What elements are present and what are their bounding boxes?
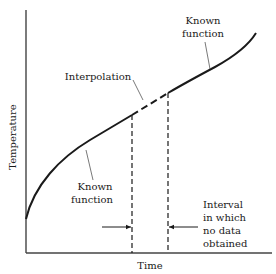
x-axis-label: Time	[137, 260, 162, 271]
known-function-lower-label-line1: Known	[78, 181, 113, 192]
interval-note-line1: Interval	[203, 199, 243, 210]
leader-interpolation	[133, 80, 143, 100]
interval-note-line2: in which	[203, 212, 247, 223]
leader-known-upper	[205, 42, 210, 69]
interval-note-line3: no data	[203, 225, 241, 236]
known-function-lower-label-line2: function	[71, 194, 113, 205]
leader-known-lower	[86, 150, 93, 180]
y-axis-label: Temperature	[7, 104, 18, 170]
known-function-curve-right	[168, 33, 256, 93]
interval-note-line4: obtained	[203, 238, 248, 249]
interpolation-curve-dashed	[132, 93, 168, 115]
known-function-upper-label-line2: function	[182, 28, 224, 39]
interpolation-diagram: Temperature Time Interpolation Known fun…	[0, 0, 276, 274]
interpolation-label: Interpolation	[65, 71, 132, 82]
known-function-upper-label-line1: Known	[186, 15, 221, 26]
